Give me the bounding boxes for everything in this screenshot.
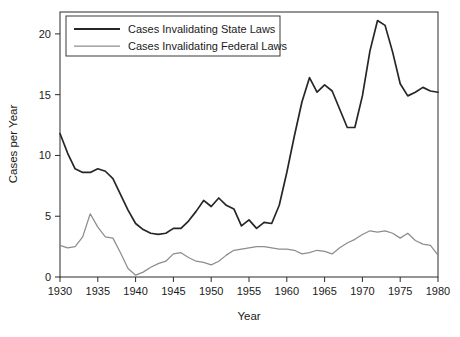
x-tick-label: 1945 — [161, 285, 185, 297]
y-axis-title: Cases per Year — [7, 105, 19, 184]
x-tick-label: 1970 — [350, 285, 374, 297]
x-tick-label: 1950 — [199, 285, 223, 297]
figure-container: 05101520 1930193519401945195019551960196… — [0, 0, 460, 337]
chart-legend: Cases Invalidating State LawsCases Inval… — [66, 16, 287, 56]
x-tick-label: 1975 — [388, 285, 412, 297]
x-tick-label: 1935 — [86, 285, 110, 297]
data-series-layer — [60, 21, 438, 276]
y-tick-label: 0 — [45, 271, 51, 283]
x-tick-label: 1930 — [48, 285, 72, 297]
y-tick-label: 5 — [45, 210, 51, 222]
y-axis-ticks: 05101520 — [39, 28, 60, 283]
series-line-federal-laws — [60, 214, 438, 275]
y-tick-label: 20 — [39, 28, 51, 40]
legend-label: Cases Invalidating Federal Laws — [128, 40, 287, 52]
legend-label: Cases Invalidating State Laws — [128, 23, 276, 35]
x-tick-label: 1955 — [237, 285, 261, 297]
x-axis-title: Year — [237, 310, 260, 322]
y-tick-label: 10 — [39, 149, 51, 161]
y-tick-label: 15 — [39, 89, 51, 101]
x-tick-label: 1965 — [312, 285, 336, 297]
x-axis-ticks: 1930193519401945195019551960196519701975… — [48, 277, 450, 297]
x-tick-label: 1940 — [123, 285, 147, 297]
x-tick-label: 1960 — [275, 285, 299, 297]
line-chart: 05101520 1930193519401945195019551960196… — [0, 0, 460, 337]
x-tick-label: 1980 — [426, 285, 450, 297]
